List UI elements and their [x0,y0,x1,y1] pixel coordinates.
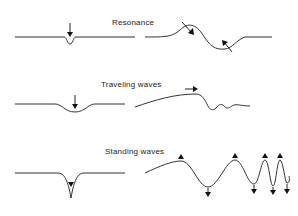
arrow-up-icon [232,153,238,158]
standing-response [145,153,290,197]
traveling-source [15,95,125,112]
wave-types-diagram: Resonance Traveling waves Standing waves [0,0,298,216]
resonance-response [145,22,272,52]
arrow-down-icon [67,32,73,37]
arrow-down-icon [284,189,290,194]
arrow-up-icon [277,153,283,158]
arrow-up-icon [178,154,184,159]
traveling-response [135,86,250,110]
arrow-down-icon [205,192,211,197]
arrow-right-icon [193,86,198,92]
arrow-down-icon [270,190,276,195]
arrow-down-icon [251,189,257,194]
wave-drawings [0,0,298,216]
arrow-down-icon [72,104,78,109]
resonance-source [15,23,135,44]
standing-source [15,173,125,198]
arrow-up-icon [262,153,268,158]
